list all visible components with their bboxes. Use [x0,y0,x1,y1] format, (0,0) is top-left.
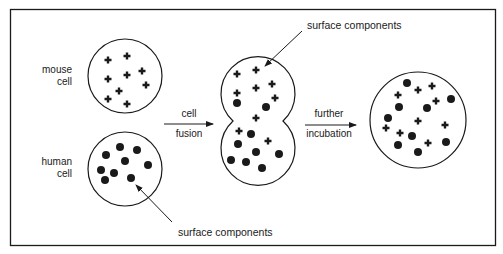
fused-hybrid-cell [221,57,295,186]
cross-component-icon [234,90,241,97]
surface-components-bottom-pointer [136,185,172,222]
mouse-cell-label-line2: cell [57,76,72,87]
cross-component-icon [253,85,260,92]
dot-component-icon [102,151,110,159]
cell-fusion-diagram: mouse cell human cell surface components… [0,0,503,254]
dot-component-icon [408,132,416,140]
cross-component-icon [236,128,243,135]
dot-marker-group [97,143,152,184]
dot-component-icon [110,169,118,177]
dot-component-icon [144,161,152,169]
cross-component-icon [253,115,260,122]
cross-component-icon [265,138,272,145]
cross-component-icon [139,68,146,75]
incubation-arrow-label-top: further [315,108,345,119]
cross-marker-group [105,53,150,108]
mouse-cell [88,39,162,113]
human-cell [88,132,162,206]
dot-component-icon [233,99,241,107]
fusion-arrow-label-bottom: fusion [176,128,203,139]
cross-component-icon [124,53,131,60]
dot-component-icon [262,103,270,111]
dot-component-icon [133,146,141,154]
cross-component-icon [415,118,422,125]
mixed-components-cell [370,72,466,168]
dot-component-icon [394,141,402,149]
mixed-marker-group [227,67,283,173]
dot-component-icon [447,95,455,103]
cross-component-icon [415,87,422,94]
surface-components-bottom-label: surface components [178,226,273,238]
human-cell-label-line2: cell [57,168,72,179]
incubation-arrow-label-bottom: incubation [306,128,352,139]
dot-component-icon [252,148,260,156]
dot-component-icon [403,79,411,87]
dot-component-icon [101,176,109,184]
cross-component-icon [253,67,260,74]
cross-component-icon [425,140,432,147]
mouse-cell-label-line1: mouse [42,64,72,75]
cross-component-icon [429,83,436,90]
cross-component-icon [269,81,276,88]
surface-components-top-label: surface components [307,19,402,31]
surface-components-top-pointer [265,31,302,66]
dot-component-icon [242,158,250,166]
cross-component-icon [105,96,112,103]
cross-component-icon [272,95,279,102]
dot-component-icon [384,114,392,122]
cross-component-icon [383,125,390,132]
fusion-arrow-label-top: cell [181,108,196,119]
dot-component-icon [275,150,283,158]
cross-component-icon [397,130,404,137]
cross-component-icon [105,57,112,64]
dot-component-icon [442,138,450,146]
dot-component-icon [227,156,235,164]
cross-component-icon [433,98,440,105]
dot-component-icon [116,143,124,151]
diagram-frame [11,10,496,246]
cross-component-icon [124,72,131,79]
cross-component-icon [234,71,241,78]
dot-component-icon [414,148,422,156]
dot-component-icon [127,174,135,182]
human-cell-label-line1: human [41,156,72,167]
cross-component-icon [395,92,402,99]
mixed-marker-group [383,79,456,156]
dot-component-icon [97,166,105,174]
dot-component-icon [423,104,431,112]
cross-component-icon [143,82,150,89]
dot-component-icon [247,130,255,138]
cross-component-icon [442,122,449,129]
dot-component-icon [121,157,129,165]
dot-component-icon [234,140,242,148]
cross-component-icon [124,101,131,108]
cross-component-icon [105,76,112,83]
cross-component-icon [116,88,123,95]
dot-component-icon [395,103,403,111]
dot-component-icon [258,164,266,172]
